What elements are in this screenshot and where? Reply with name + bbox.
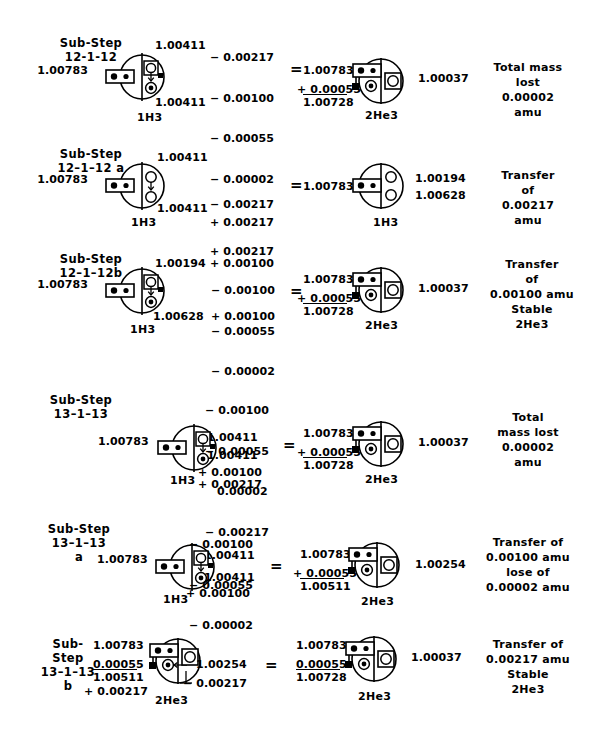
equals-sign: =: [270, 559, 283, 574]
equals-sign: =: [290, 178, 303, 193]
row-note: Transfer of 0.00100 amu lose of 0.00002 …: [468, 535, 588, 595]
sum-rule: [93, 669, 137, 670]
sum-rule: [303, 94, 347, 95]
right-value-a: 1.00194: [415, 172, 466, 186]
operation-item: − 0.00217: [210, 198, 274, 212]
operation-item: + 0.00100: [186, 587, 250, 601]
sub-step-row-13-1-13a: Sub-Step 13–1–13 a 1.00783 1.00411 1.004…: [0, 505, 595, 625]
row-note: Transfer of 0.00217 amu Stable 2He3: [468, 637, 588, 697]
right-atom-value: 1.00037: [418, 72, 469, 86]
left-isotope-label: 1H3: [130, 324, 155, 336]
right-atom-value: 1.00254: [415, 558, 466, 572]
operation-item: + 0.00100: [211, 310, 275, 324]
right-atom-value: 1.00037: [411, 651, 462, 665]
sum-rule: [296, 669, 340, 670]
operation-item: − 0.00100: [205, 404, 269, 418]
operation-item: − 0.00217: [210, 51, 274, 65]
atom-glyph-helium3: [345, 262, 417, 318]
right-isotope-label: 2He3: [365, 320, 398, 332]
sub-step-row-13-1-13b: Sub- Step 13–1–13 b 1.00783 0.00055 1.00…: [0, 625, 595, 743]
row-note: Transfer of 0.00100 amu Stable 2He3: [473, 257, 591, 332]
atom-glyph-helium3: [345, 53, 417, 109]
right-atom-value: 1.00037: [418, 282, 469, 296]
atom-glyph-tritium: [96, 48, 176, 106]
operation-item: − 0.00100: [210, 92, 274, 106]
sub-step-row-12-1-12b: Sub-Step 12–1–12b 1.00783 1.00194 1.0062…: [0, 240, 595, 375]
left-sum-total: 1.00511: [93, 671, 144, 685]
operation-item: − 0.00055: [205, 445, 269, 459]
left-mass-value: 1.00783: [28, 64, 88, 78]
left-isotope-label: 1H3: [137, 112, 162, 124]
sum-rule: [303, 457, 347, 458]
atom-glyph-helium3: [341, 537, 413, 593]
atom-glyph-tritium: [96, 262, 176, 320]
right-isotope-label: 2He3: [358, 691, 391, 703]
left-isotope-label: 1H3: [131, 217, 156, 229]
left-mass-value: 1.00783: [28, 278, 88, 292]
sub-step-row-12-1-12: Sub-Step 12-1-12 1.00783 1.00411 1.00411…: [0, 0, 595, 135]
sum-rule: [303, 303, 347, 304]
left-mass-value: 1.00783: [28, 173, 88, 187]
atom-glyph-helium3: [345, 416, 417, 472]
row-note: Transfer of 0.00217 amu: [473, 168, 583, 228]
left-isotope-label: 2He3: [155, 695, 188, 707]
sum-rule: [300, 578, 344, 579]
sub-step-row-12-1-12a: Sub-Step 12–1–12 a 1.00783 1.00411 1.004…: [0, 135, 595, 240]
left-sum-line-a: 1.00783: [93, 639, 144, 653]
right-atom-value: 1.00037: [418, 436, 469, 450]
right-isotope-label: 2He3: [361, 596, 394, 608]
operation-item: − 0.00055: [211, 325, 275, 339]
left-atom-value: 1.00254: [196, 658, 247, 672]
left-mass-value: 1.00783: [97, 553, 148, 567]
row-note: Total mass lost 0.00002 amu: [473, 60, 583, 120]
right-isotope-label: 2He3: [365, 474, 398, 486]
left-mass-value: 1.00783: [98, 435, 149, 449]
operation-item: − 0.00100: [189, 538, 253, 552]
row-note: Total mass lost 0.00002 amu: [473, 410, 583, 470]
left-sum-add: + 0.00217: [84, 685, 148, 699]
operation-item: + 0.00217: [198, 478, 262, 492]
sub-step-row-13-1-13: Sub-Step 13–1–13 1.00783 1.00411 1.00411…: [0, 375, 595, 505]
right-value-b: 1.00628: [415, 189, 466, 203]
atom-glyph-helium3: [338, 631, 410, 687]
step-label: Sub-Step 13–1–13: [26, 393, 136, 421]
equals-sign: =: [290, 62, 303, 77]
right-isotope-label: 2He3: [365, 110, 398, 122]
equals-sign: =: [283, 438, 296, 453]
atom-glyph-tritium-open: [96, 157, 176, 215]
left-operation: − 0.00217: [183, 677, 247, 691]
operation-item: − 0.00100: [211, 284, 275, 298]
equals-sign: =: [265, 658, 278, 673]
atom-glyph-tritium-split: [345, 157, 417, 215]
right-isotope-label: 1H3: [373, 217, 398, 229]
